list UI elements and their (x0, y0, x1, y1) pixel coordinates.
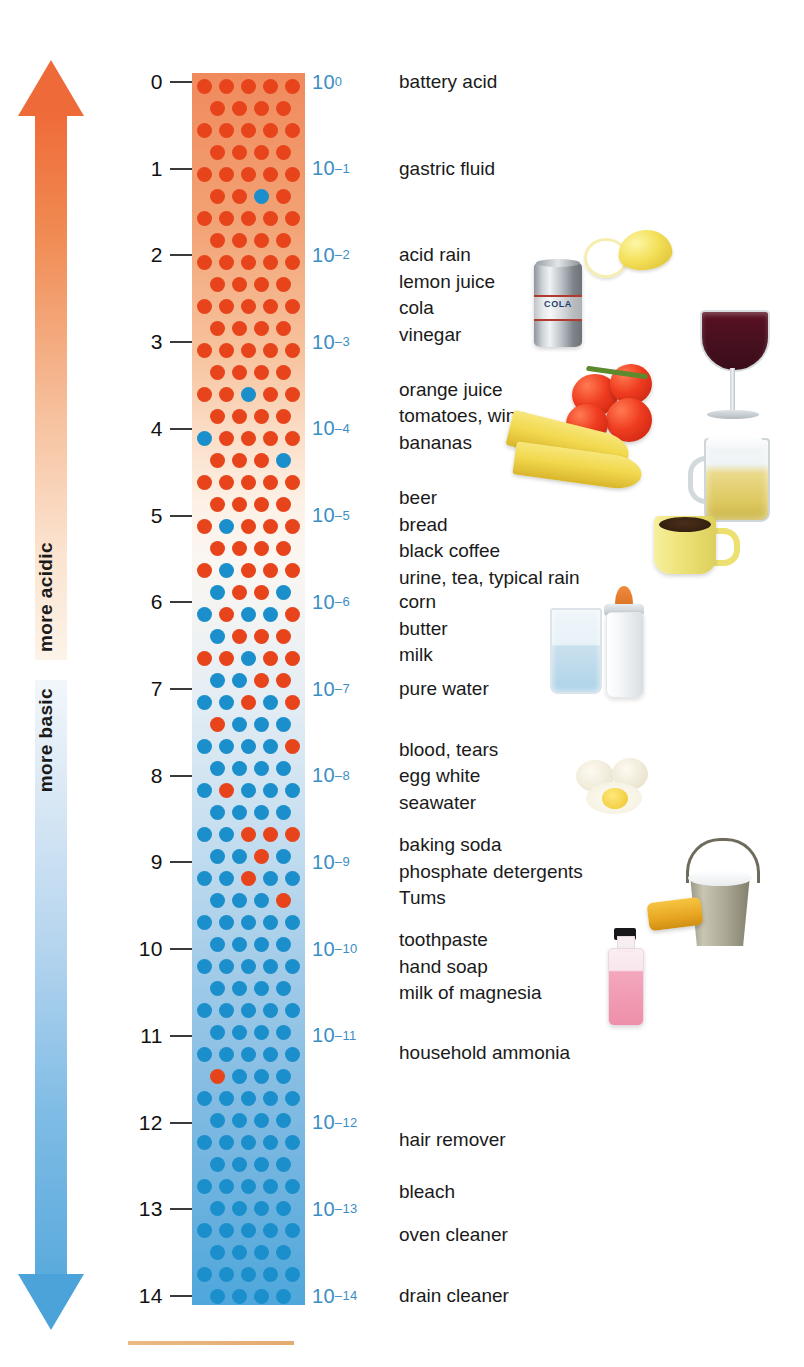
hydrogen-ion-dot (197, 255, 212, 270)
hydrogen-ion-dot (254, 145, 269, 160)
hydrogen-ion-dot (197, 167, 212, 182)
hydrogen-ion-dot (254, 673, 269, 688)
substance-group-2: acid rainlemon juicecolavinegar (399, 242, 495, 348)
hydroxide-ion-dot (232, 1069, 247, 1084)
hydroxide-ion-dot (254, 981, 269, 996)
hydroxide-ion-dot (263, 739, 278, 754)
hydrogen-ion-dot (276, 497, 291, 512)
hydrogen-ion-dot (210, 541, 225, 556)
hydroxide-ion-dot (219, 1267, 234, 1282)
hydrogen-ion-dot (210, 453, 225, 468)
hydroxide-ion-dot (232, 1289, 247, 1304)
hydrogen-ion-dot (285, 167, 300, 182)
hydrogen-ion-dot (285, 651, 300, 666)
hydrogen-ion-dot (263, 431, 278, 446)
ph-tick-mark (170, 81, 192, 83)
hydrogen-ion-dot (232, 453, 247, 468)
wine-glass-foot (707, 410, 759, 419)
ph-tick-label: 11 (140, 1024, 163, 1048)
hydrogen-ion-dot (197, 299, 212, 314)
hydroxide-ion-dot (197, 607, 212, 622)
concentration-label-1: 10–1 (312, 156, 350, 182)
hydroxide-ion-dot (232, 1157, 247, 1172)
hydroxide-ion-dot (241, 387, 256, 402)
substance-group-9: toothpastehand soapmilk of magnesia (399, 927, 542, 1007)
hydrogen-ion-dot (254, 629, 269, 644)
hydrogen-ion-dot (263, 563, 278, 578)
hydrogen-ion-dot (285, 255, 300, 270)
ph-tick-8: 8 (120, 764, 192, 788)
hydroxide-ion-dot (263, 695, 278, 710)
hydroxide-ion-dot (285, 915, 300, 930)
ph-tick-13: 13 (120, 1197, 192, 1221)
hydroxide-ion-dot (241, 607, 256, 622)
ph-tick-10: 10 (120, 937, 192, 961)
hydroxide-ion-dot (197, 915, 212, 930)
hydroxide-ion-dot (263, 783, 278, 798)
hydrogen-ion-dot (263, 827, 278, 842)
ph-tick-label: 10 (139, 937, 163, 961)
hydrogen-ion-dot (197, 651, 212, 666)
hydroxide-ion-dot (232, 805, 247, 820)
hydrogen-ion-dot (241, 871, 256, 886)
hydroxide-ion-dot (210, 893, 225, 908)
hydroxide-ion-dot (241, 1047, 256, 1062)
wine-glass-stem (730, 368, 735, 412)
hydroxide-ion-dot (254, 805, 269, 820)
substance-group-4: beerbreadblack coffeeurine, tea, typical… (399, 485, 580, 591)
beer-foam (706, 436, 764, 453)
hydrogen-ion-dot (210, 1069, 225, 1084)
substance-label: milk (399, 642, 448, 669)
hydroxide-ion-dot (276, 717, 291, 732)
concentration-label-6: 10–6 (312, 589, 350, 615)
hydrogen-ion-dot (263, 475, 278, 490)
hydrogen-ion-dot (210, 321, 225, 336)
hydrogen-ion-dot (197, 79, 212, 94)
hydrogen-ion-dot (285, 343, 300, 358)
hydroxide-ion-dot (219, 739, 234, 754)
substance-label: bleach (399, 1179, 455, 1206)
hydrogen-ion-dot (219, 299, 234, 314)
substance-group-1: gastric fluid (399, 156, 495, 183)
hydroxide-ion-dot (263, 1179, 278, 1194)
hydrogen-ion-dot (210, 233, 225, 248)
hydrogen-ion-dot (263, 167, 278, 182)
substance-group-5: cornbuttermilk (399, 589, 448, 669)
ph-tick-mark (170, 168, 192, 170)
hydroxide-ion-dot (210, 761, 225, 776)
hydroxide-ion-dot (254, 1113, 269, 1128)
substance-group-12: bleach (399, 1179, 455, 1206)
hydrogen-ion-dot (254, 321, 269, 336)
hydrogen-ion-dot (285, 827, 300, 842)
hydroxide-ion-dot (210, 629, 225, 644)
hydrogen-ion-dot (263, 519, 278, 534)
concentration-label-12: 10–12 (312, 1110, 357, 1136)
hydrogen-ion-dot (254, 233, 269, 248)
hydroxide-ion-dot (285, 1135, 300, 1150)
hydroxide-ion-dot (210, 981, 225, 996)
hydrogen-ion-dot (232, 409, 247, 424)
hydroxide-ion-dot (197, 1047, 212, 1062)
hydroxide-ion-dot (254, 761, 269, 776)
ph-tick-mark (170, 948, 192, 950)
ph-gradient-column (192, 73, 305, 1305)
hydroxide-ion-dot (254, 189, 269, 204)
hydrogen-ion-dot (232, 541, 247, 556)
hydrogen-ion-dot (254, 409, 269, 424)
hydrogen-ion-dot (285, 299, 300, 314)
hydrogen-ion-dot (219, 123, 234, 138)
concentration-label-2: 10–2 (312, 242, 350, 268)
hydrogen-ion-dot (276, 145, 291, 160)
hydroxide-ion-dot (263, 871, 278, 886)
hydroxide-ion-dot (219, 827, 234, 842)
hydrogen-ion-dot (241, 431, 256, 446)
hydrogen-ion-dot (263, 299, 278, 314)
hydroxide-ion-dot (254, 893, 269, 908)
hydroxide-ion-dot (219, 915, 234, 930)
hydroxide-ion-dot (232, 937, 247, 952)
hydrogen-ion-dot (285, 211, 300, 226)
hydrogen-ion-dot (263, 211, 278, 226)
acidity-direction-panel: more acidic more basic (0, 60, 110, 1330)
substance-group-3: orange juicetomatoes, winebananas (399, 377, 527, 457)
ph-tick-3: 3 (120, 330, 192, 354)
